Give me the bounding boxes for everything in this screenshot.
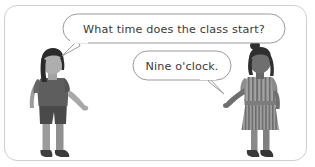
right-child-shoe-far bbox=[260, 150, 273, 157]
question-bubble-text: What time does the class start? bbox=[83, 23, 265, 36]
left-child-leg-far bbox=[56, 120, 64, 153]
illustration-scene: What time does the class start? Nine o'c… bbox=[0, 0, 315, 167]
speech-bubble-answer: Nine o'clock. bbox=[133, 51, 231, 94]
right-child-hand-left bbox=[223, 103, 229, 108]
answer-bubble-text: Nine o'clock. bbox=[145, 60, 218, 73]
left-child-shoe-near bbox=[40, 150, 52, 157]
right-child-sleeve-far bbox=[272, 78, 278, 92]
figure-left-child bbox=[30, 48, 88, 157]
right-child-leg-far bbox=[263, 126, 270, 153]
question-bubble-tail-seam bbox=[70, 40, 88, 44]
left-child-hand bbox=[82, 105, 88, 110]
speech-bubble-question: What time does the class start? bbox=[62, 14, 285, 56]
left-child-sleeve-far bbox=[64, 79, 70, 93]
right-child-shoe-near bbox=[247, 150, 259, 157]
scene-artwork: What time does the class start? Nine o'c… bbox=[0, 0, 315, 167]
left-child-leg-near bbox=[43, 120, 51, 153]
right-child-skirt bbox=[242, 103, 280, 130]
figure-right-child bbox=[223, 41, 280, 157]
right-child-leg-near bbox=[251, 126, 258, 153]
right-child-bodice bbox=[245, 77, 277, 101]
left-child-shirt bbox=[38, 78, 69, 106]
left-child-sleeve-near bbox=[33, 79, 39, 93]
left-child-shoe-far bbox=[55, 150, 69, 157]
answer-bubble-tail-seam bbox=[200, 76, 216, 80]
